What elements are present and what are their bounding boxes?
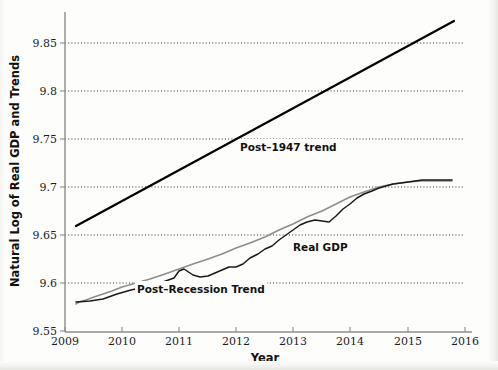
x-tick-label-2014: 2014 (336, 335, 364, 348)
x-tick-label-2013: 2013 (279, 335, 307, 348)
x-tick-label-2010: 2010 (108, 335, 136, 348)
y-tick-label-9-75: 9.75 (33, 133, 58, 146)
y-tick-label-9-80: 9.8 (40, 85, 58, 98)
y-tick-labels: 9.85 9.8 9.75 9.7 9.65 9.6 9.55 (33, 37, 58, 338)
page-edge-bottom (0, 361, 498, 370)
x-tick-label-2011: 2011 (165, 335, 193, 348)
x-tick-labels: 2009 2010 2011 2012 2013 2014 2015 2016 (51, 335, 479, 348)
gdp-trend-chart: 9.85 9.8 9.75 9.7 9.65 9.6 9.55 2009 201… (0, 0, 498, 370)
figure-page: 9.85 9.8 9.75 9.7 9.65 9.6 9.55 2009 201… (0, 0, 498, 370)
x-tick-label-2016: 2016 (451, 335, 479, 348)
x-tick-label-2015: 2015 (394, 335, 422, 348)
y-tick-label-9-65: 9.65 (33, 229, 58, 242)
annotation-post-recession-trend: Post–Recession Trend (137, 283, 265, 295)
y-tick-label-9-60: 9.6 (40, 277, 58, 290)
annotation-post-1947-trend: Post–1947 trend (240, 141, 337, 153)
y-tick-label-9-70: 9.7 (40, 181, 58, 194)
annotation-real-gdp: Real GDP (293, 241, 348, 253)
y-tick-marks (60, 43, 65, 331)
x-tick-label-2009: 2009 (51, 335, 79, 348)
y-tick-label-9-85: 9.85 (33, 37, 58, 50)
page-edge-left (0, 0, 5, 370)
page-edge-right (488, 0, 498, 370)
x-tick-label-2012: 2012 (222, 335, 250, 348)
y-axis-title: Natural Log of Real GDP and Trends (8, 55, 22, 287)
